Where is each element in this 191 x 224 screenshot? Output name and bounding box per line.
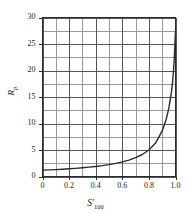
x-axis-tick-label: 0.2	[57, 181, 81, 190]
x-axis-tick-label: 0.6	[110, 181, 134, 190]
y-axis-tick-label: 30	[16, 12, 36, 21]
x-axis-tick-label: 0.4	[84, 181, 108, 190]
y-axis-tick-label: 20	[16, 65, 36, 74]
x-axis-tick-label: 0	[31, 181, 55, 190]
y-axis-tick-label: 10	[16, 118, 36, 127]
y-axis-tick-label: 15	[16, 92, 36, 101]
x-axis-tick-label: 1.0	[164, 181, 188, 190]
y-axis-tick-label: 0	[16, 171, 36, 180]
x-axis-tick-label: 0.8	[137, 181, 161, 190]
y-axis-tick-label: 5	[16, 145, 36, 154]
plot-canvas	[0, 0, 191, 224]
y-axis-tick-label: 25	[16, 39, 36, 48]
chart-figure: Rp S′100 05101520253000.20.40.60.81.0	[0, 0, 191, 224]
